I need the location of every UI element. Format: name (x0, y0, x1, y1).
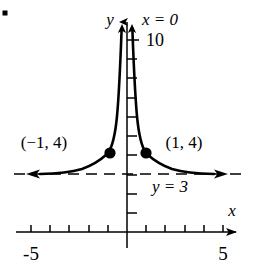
x-tick-label-min: -5 (23, 243, 39, 264)
coordinate-plane-svg: y x x = 0 10 (−1, 4) (1, 4) y = 3 -5 5 (0, 0, 258, 277)
horizontal-asymptote-label: y = 3 (150, 177, 188, 196)
point-label-right: (1, 4) (166, 133, 203, 152)
x-tick-label-max: 5 (218, 243, 228, 264)
x-axis-label: x (227, 201, 236, 220)
y-axis-label: y (104, 10, 114, 29)
y-tick-label-10: 10 (146, 30, 164, 50)
point-label-left: (−1, 4) (21, 133, 67, 152)
graph-figure: y x x = 0 10 (−1, 4) (1, 4) y = 3 -5 5 (0, 0, 258, 277)
point-marker-right (140, 147, 151, 158)
bullet-marker (3, 11, 8, 16)
point-marker-left (104, 147, 115, 158)
vertical-asymptote-label: x = 0 (141, 10, 179, 29)
